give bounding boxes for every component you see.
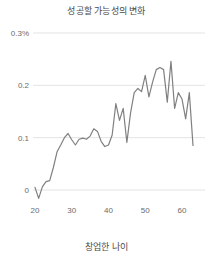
data-series-line — [35, 61, 193, 198]
x-axis-tick-label: 60 — [178, 206, 187, 215]
y-axis-tick-label: 0.3% — [0, 29, 29, 38]
x-axis-tick-label: 30 — [67, 206, 76, 215]
x-axis-tick-label: 20 — [31, 206, 40, 215]
x-axis-tick-label: 40 — [104, 206, 113, 215]
plot-area — [0, 0, 213, 264]
x-axis-tick-label: 50 — [141, 206, 150, 215]
y-axis-tick-label: 0.1 — [0, 133, 29, 142]
chart-container: 성공할 가능성의 변화 0.3%0.20.10 2030405060 창업한 나… — [0, 0, 213, 264]
y-axis-tick-label: 0.2 — [0, 81, 29, 90]
gridlines — [33, 33, 205, 190]
x-axis-label: 창업한 나이 — [0, 240, 213, 253]
y-axis-tick-label: 0 — [0, 186, 29, 195]
